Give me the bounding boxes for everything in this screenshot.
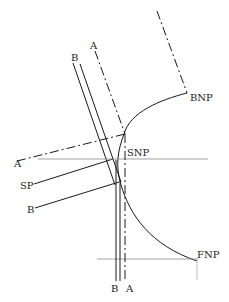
label-a-bottom: A: [125, 283, 134, 294]
sp-line: [34, 159, 113, 184]
b-top-line-1: [73, 63, 115, 185]
b-left-line: [35, 182, 119, 208]
label-a-left: A: [13, 158, 22, 169]
label-sp: SP: [20, 180, 34, 191]
label-a-top: A: [89, 40, 98, 51]
label-fnp: FNP: [197, 249, 220, 260]
profile-curve: [118, 93, 197, 261]
lens-layout-diagram: BNP SNP FNP SP A B A B B A: [0, 0, 229, 302]
label-snp: SNP: [127, 147, 150, 158]
label-b-left: B: [27, 204, 34, 215]
b-top-line-2: [80, 64, 121, 182]
bnp-axis-line: [157, 11, 187, 93]
label-b-top: B: [71, 52, 78, 63]
label-b-bottom: B: [111, 283, 118, 294]
label-bnp: BNP: [190, 92, 213, 103]
